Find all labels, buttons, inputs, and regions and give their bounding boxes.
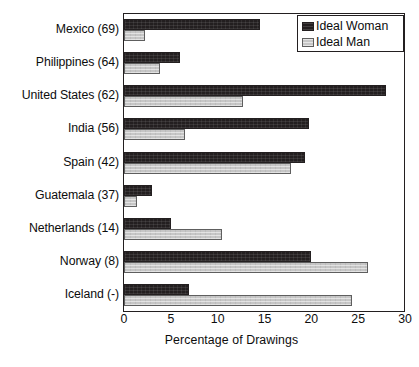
bar-ideal-man	[124, 163, 291, 174]
bar-ideal-woman	[124, 85, 386, 96]
bar-ideal-woman	[124, 52, 180, 63]
bar-ideal-woman	[124, 218, 171, 229]
legend-swatch-man	[302, 38, 314, 47]
legend-label: Ideal Man	[316, 36, 370, 49]
bar-ideal-man	[124, 129, 185, 140]
y-axis-label: Netherlands (14)	[0, 222, 119, 235]
y-axis-label: Iceland (-)	[0, 288, 119, 301]
bar-ideal-man	[124, 30, 145, 41]
bar-ideal-woman	[124, 19, 260, 30]
y-axis-label: United States (62)	[0, 89, 119, 102]
bar-ideal-man	[124, 229, 222, 240]
legend-item: Ideal Man	[302, 35, 403, 50]
legend-label: Ideal Woman	[316, 20, 388, 33]
y-axis-label: Guatemala (37)	[0, 189, 119, 202]
x-tick-label: 30	[385, 312, 419, 327]
bar-ideal-man	[124, 96, 243, 107]
bar-ideal-woman	[124, 185, 152, 196]
bar-ideal-man	[124, 295, 352, 306]
bar-ideal-woman	[124, 284, 189, 295]
x-axis-title: Percentage of Drawings	[0, 333, 419, 347]
bar-ideal-woman	[124, 152, 305, 163]
y-axis-label: Norway (8)	[0, 255, 119, 268]
x-tick-label: 5	[151, 312, 191, 327]
x-tick-label: 25	[338, 312, 378, 327]
y-axis-label: Philippines (64)	[0, 56, 119, 69]
y-axis-label: Spain (42)	[0, 156, 119, 169]
x-axis-title-text: Percentage of Drawings	[165, 333, 298, 347]
x-axis-tick-labels: 051015202530	[0, 312, 419, 328]
x-tick-label: 0	[104, 312, 144, 327]
bar-ideal-man	[124, 262, 368, 273]
x-tick-label: 10	[198, 312, 238, 327]
y-axis-label: Mexico (69)	[0, 23, 119, 36]
legend: Ideal WomanIdeal Man	[297, 15, 404, 52]
bar-chart: Mexico (69)Philippines (64)United States…	[0, 0, 419, 367]
bar-ideal-woman	[124, 251, 311, 262]
y-axis-category-labels: Mexico (69)Philippines (64)United States…	[0, 13, 119, 312]
y-axis-label: India (56)	[0, 122, 119, 135]
legend-swatch-woman	[302, 22, 314, 31]
legend-item: Ideal Woman	[302, 19, 403, 34]
bars-layer	[124, 13, 405, 312]
bar-ideal-man	[124, 63, 160, 74]
bar-ideal-woman	[124, 118, 309, 129]
x-tick-label: 20	[291, 312, 331, 327]
bar-ideal-man	[124, 196, 137, 207]
x-tick-label: 15	[245, 312, 285, 327]
